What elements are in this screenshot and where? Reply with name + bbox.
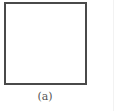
square-shape <box>4 2 87 85</box>
figure-caption: (a) <box>25 90 65 104</box>
adjacent-panel-edge <box>113 0 114 111</box>
figure-panel: (a) <box>0 0 115 111</box>
